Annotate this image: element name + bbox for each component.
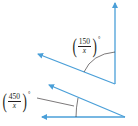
- right-paren: ): [92, 35, 96, 57]
- degree-symbol: °: [98, 36, 100, 42]
- bottom-angle-leader-line: [37, 98, 74, 106]
- bottom-angle-arc: [76, 98, 78, 117]
- top-angle-slanted-ray: [38, 54, 115, 84]
- fraction: 450 x: [8, 93, 20, 110]
- fraction: 150 x: [78, 38, 90, 55]
- degree-symbol: °: [28, 91, 30, 97]
- bottom-angle-slanted-ray: [49, 85, 125, 117]
- bottom-angle-label: ( 450 x ) °: [1, 90, 30, 112]
- left-paren: (: [72, 35, 76, 57]
- top-angle-label: ( 150 x ) °: [71, 35, 100, 57]
- denominator: x: [83, 47, 86, 55]
- right-paren: ): [22, 90, 26, 112]
- left-paren: (: [2, 90, 6, 112]
- denominator: x: [13, 102, 16, 110]
- bottom-angle: [37, 85, 125, 117]
